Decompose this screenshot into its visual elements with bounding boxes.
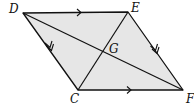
vertex-label-D: D xyxy=(8,2,19,16)
vertex-label-C: C xyxy=(70,92,79,106)
vertex-label-F: F xyxy=(185,92,194,106)
intersection-label-G: G xyxy=(109,42,119,56)
vertex-label-E: E xyxy=(130,1,140,15)
parallelogram-diagram: D E C F G xyxy=(0,0,194,106)
